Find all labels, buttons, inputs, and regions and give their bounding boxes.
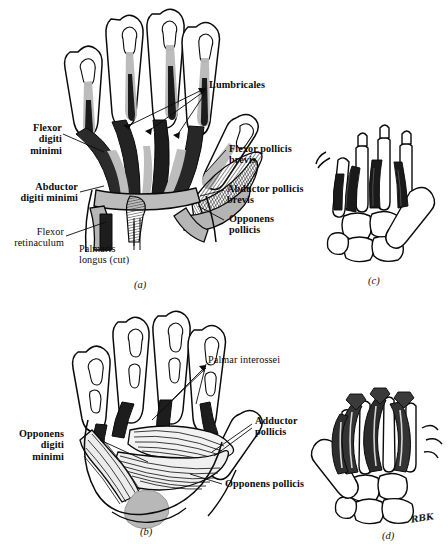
label-palmar-interossei: Palmar interossei bbox=[208, 354, 280, 365]
label-opponens-pollicis-a: Opponens pollicis bbox=[229, 213, 274, 236]
label-abductor-pollicis-brevis: Abductor pollicis brevis bbox=[227, 183, 304, 206]
caption-panel-c: (c) bbox=[368, 275, 380, 286]
label-flexor-digiti-minimi: Flexor digiti minimi bbox=[6, 122, 62, 156]
label-adductor-pollicis: Adductor pollicis bbox=[255, 415, 298, 438]
dorsal-interossei-d bbox=[332, 388, 414, 474]
anatomy-figure: Lumbricales Flexor digiti minimi Abducto… bbox=[0, 0, 448, 550]
flexor-retinaculum bbox=[90, 188, 208, 250]
caption-panel-b: (b) bbox=[140, 526, 152, 537]
label-opponens-pollicis-b: Opponens pollicis bbox=[225, 478, 304, 489]
label-lumbricales: Lumbricales bbox=[209, 79, 265, 90]
panel-b-art bbox=[73, 311, 263, 528]
label-flexor-pollicis-brevis: Flexor pollicis brevis bbox=[229, 143, 292, 166]
label-palmaris-longus: Palmaris longus (cut) bbox=[79, 243, 129, 266]
label-opponens-digiti-minimi: Opponens digiti minimi bbox=[2, 428, 64, 462]
panel-d-art bbox=[311, 388, 442, 524]
label-flexor-retinaculum: Flexor retinaculum bbox=[4, 226, 64, 249]
panel-c-art bbox=[316, 125, 435, 262]
label-abductor-digiti-minimi: Abductor digiti minimi bbox=[2, 181, 78, 204]
caption-panel-d: (d) bbox=[382, 530, 394, 541]
caption-panel-a: (a) bbox=[134, 279, 146, 290]
